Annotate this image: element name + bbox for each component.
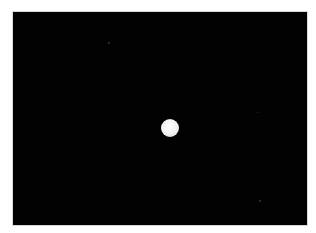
dark-sky-photo [13, 12, 307, 225]
faint-star [259, 200, 261, 202]
bright-celestial-body [161, 119, 179, 137]
faint-star [257, 112, 258, 113]
faint-star [108, 42, 110, 44]
